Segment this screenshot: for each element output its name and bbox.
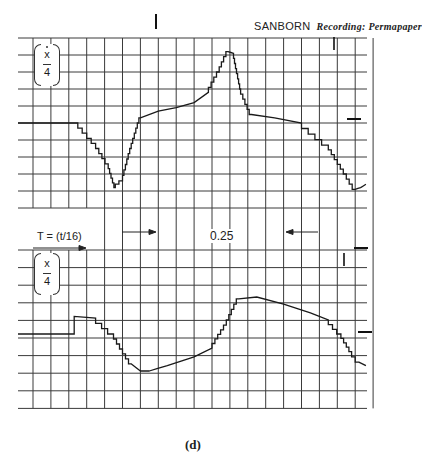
middle-label-band-verticals bbox=[105, 208, 374, 250]
fraction-bar bbox=[43, 64, 51, 65]
top-y-axis-label: x 4 bbox=[34, 44, 60, 86]
bottom-displacement-trace bbox=[18, 297, 366, 371]
recorder-brand-label: SANBORNRecording: Permapaper bbox=[254, 20, 422, 32]
figure-caption: (d) bbox=[185, 437, 201, 453]
right-paren bbox=[53, 253, 60, 295]
interval-label: 0.25 bbox=[208, 229, 235, 243]
brand-name: SANBORN bbox=[254, 20, 311, 32]
bottom-panel-grid bbox=[18, 250, 373, 408]
fraction-bar bbox=[43, 273, 51, 274]
bottom-y-axis-label: x 4 bbox=[34, 253, 60, 295]
interval-start-arrow bbox=[122, 230, 156, 235]
right-paren bbox=[53, 44, 60, 86]
paper-type: Recording: Permapaper bbox=[317, 21, 422, 32]
time-scale-label: T = (t/16) bbox=[36, 230, 83, 242]
